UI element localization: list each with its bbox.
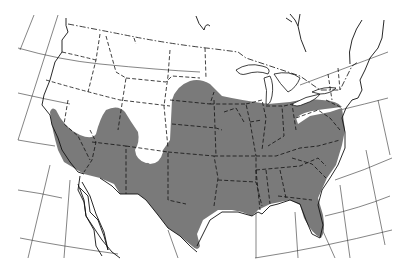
range-map bbox=[0, 0, 405, 275]
map-canvas bbox=[0, 0, 405, 275]
great-lakes bbox=[236, 65, 336, 106]
baja-california bbox=[78, 182, 108, 256]
canadian-rivers bbox=[196, 14, 362, 64]
